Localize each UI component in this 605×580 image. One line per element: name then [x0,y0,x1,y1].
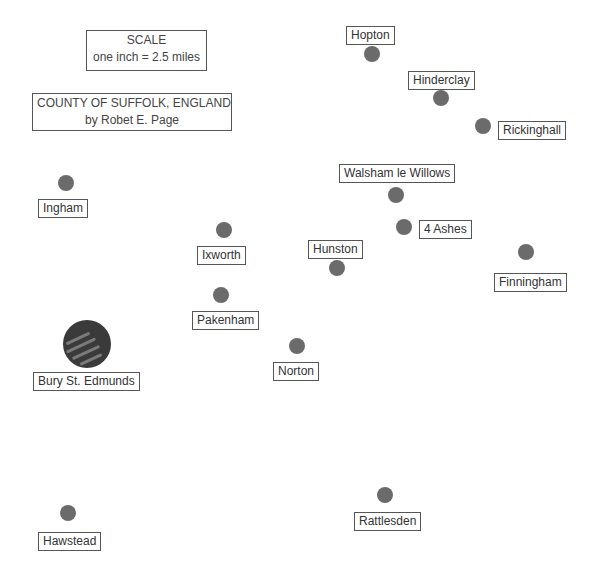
town-label-hunston: Hunston [308,240,363,259]
town-label-hawstead: Hawstead [38,532,101,551]
map-author: by Robet E. Page [37,112,227,129]
town-label-ingham: Ingham [38,199,88,218]
town-marker-rattlesden[interactable] [377,487,393,503]
town-marker-rickinghall[interactable] [475,118,491,134]
town-marker-finningham[interactable] [518,244,534,260]
town-label-rattlesden: Rattlesden [354,512,421,531]
scale-text: one inch = 2.5 miles [91,49,202,66]
scale-box: SCALE one inch = 2.5 miles [86,30,207,71]
scale-title: SCALE [91,32,202,49]
town-label-pakenham: Pakenham [192,311,259,330]
town-marker-walsham-le-willows[interactable] [388,187,404,203]
town-marker-4-ashes[interactable] [396,219,412,235]
town-marker-pakenham[interactable] [213,287,229,303]
town-marker-norton[interactable] [289,338,305,354]
town-label-ixworth: Ixworth [197,246,246,265]
town-label-hopton: Hopton [346,26,395,45]
town-marker-hawstead[interactable] [60,505,76,521]
town-marker-hunston[interactable] [329,260,345,276]
town-label-finningham: Finningham [494,273,567,292]
town-marker-ingham[interactable] [58,175,74,191]
map-title: COUNTY OF SUFFOLK, ENGLAND [37,95,227,112]
town-label-walsham-le-willows: Walsham le Willows [339,164,455,183]
town-label-bury-st-edmunds: Bury St. Edmunds [33,372,140,391]
town-label-4-ashes: 4 Ashes [419,220,472,239]
town-marker-ixworth[interactable] [216,222,232,238]
town-marker-bury-st-edmunds[interactable] [63,320,111,368]
map-title-box: COUNTY OF SUFFOLK, ENGLAND by Robet E. P… [32,93,232,131]
town-marker-hinderclay[interactable] [433,90,449,106]
town-marker-hopton[interactable] [364,46,380,62]
town-label-hinderclay: Hinderclay [408,71,475,90]
town-label-norton: Norton [273,362,319,381]
town-label-rickinghall: Rickinghall [498,121,566,140]
